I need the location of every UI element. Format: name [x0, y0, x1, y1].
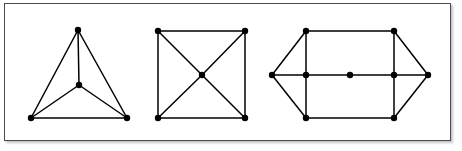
graph-vertex [303, 28, 309, 34]
graph-vertex [391, 28, 397, 34]
graph-vertex [347, 72, 353, 78]
graph-edge [394, 31, 428, 75]
graph-edge [31, 85, 79, 118]
graphs-layer [28, 27, 431, 121]
graph-2 [155, 28, 248, 121]
graph-edge [394, 75, 428, 118]
graph-vertex [391, 72, 397, 78]
graph-edge [202, 31, 245, 75]
graph-vertex [76, 82, 82, 88]
graph-edge [78, 30, 79, 85]
graph-vertex [242, 115, 248, 121]
graph-vertex [155, 28, 161, 34]
graph-vertex [75, 27, 81, 33]
graph-vertex [303, 115, 309, 121]
graph-edge [272, 31, 306, 75]
graph-edge [272, 75, 306, 118]
graph-edge [31, 30, 78, 118]
graph-vertex [199, 72, 205, 78]
graph-vertex [28, 115, 34, 121]
graph-vertex [124, 115, 130, 121]
graph-edge [79, 85, 127, 118]
graph-edge [158, 75, 202, 118]
graph-vertex [425, 72, 431, 78]
graph-vertex [242, 28, 248, 34]
graph-vertex [155, 115, 161, 121]
graph-vertex [303, 72, 309, 78]
graph-edge [78, 30, 127, 118]
figure-root [0, 0, 462, 151]
graph-edge [202, 75, 245, 118]
graph-3 [269, 28, 431, 121]
graph-edge [158, 31, 202, 75]
graph-vertex [269, 72, 275, 78]
graph-1 [28, 27, 130, 121]
graph-diagram-canvas [0, 0, 462, 151]
graph-vertex [391, 115, 397, 121]
